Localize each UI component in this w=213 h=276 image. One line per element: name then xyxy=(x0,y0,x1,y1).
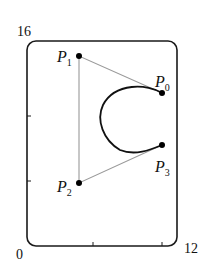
y-max-label: 16 xyxy=(17,24,31,39)
x-max-label: 12 xyxy=(184,241,198,256)
bezier-diagram: P1 P0 P3 P2 16 0 12 xyxy=(0,0,213,276)
point-p3 xyxy=(159,142,165,148)
origin-label: 0 xyxy=(16,247,23,262)
bezier-curve xyxy=(100,87,162,153)
control-polygon xyxy=(79,56,162,183)
plot-frame xyxy=(27,41,177,246)
point-p2 xyxy=(76,180,82,186)
label-p3: P3 xyxy=(154,158,170,178)
label-p2: P2 xyxy=(56,178,72,198)
point-p1 xyxy=(76,53,82,59)
label-p1: P1 xyxy=(56,48,72,68)
